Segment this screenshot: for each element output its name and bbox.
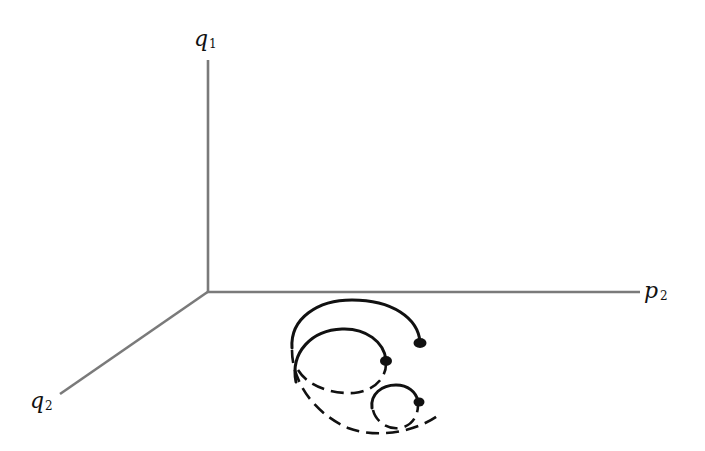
large-orbit <box>292 300 440 433</box>
small-orbit-dashed-arc <box>373 405 418 428</box>
axis-labels: q1 p2 q2 <box>30 26 668 413</box>
q2-axis <box>60 291 209 394</box>
large-orbit-endpoint-dot <box>414 338 427 348</box>
q1-label: q1 <box>194 26 217 51</box>
medium-orbit <box>295 329 392 393</box>
small-orbit <box>372 385 425 428</box>
axes <box>60 60 640 394</box>
phase-space-diagram: q1 p2 q2 <box>0 0 705 451</box>
small-orbit-solid-arc <box>372 385 418 408</box>
medium-orbit-endpoint-dot <box>380 356 392 366</box>
small-orbit-endpoint-dot <box>414 398 425 407</box>
p2-label: p2 <box>644 278 668 303</box>
medium-orbit-dashed-arc <box>298 364 386 393</box>
large-orbit-dashed-arc <box>292 350 440 433</box>
q2-label: q2 <box>30 388 53 413</box>
medium-orbit-solid-arc <box>295 329 386 382</box>
